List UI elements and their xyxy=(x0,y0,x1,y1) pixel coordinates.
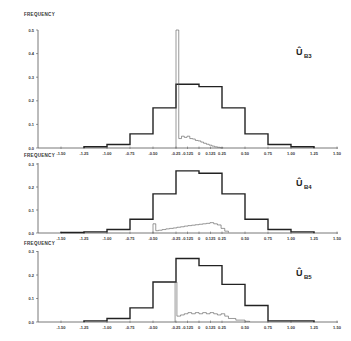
x-tick-label: -0.125 xyxy=(182,151,194,156)
y-axis-label: FREQUENCY xyxy=(24,153,55,158)
x-tick-label: 0.125 xyxy=(205,325,216,330)
y-tick-label: 0.3 xyxy=(28,249,34,254)
x-tick-label: -0.50 xyxy=(148,236,158,241)
x-tick-label: -1.50 xyxy=(56,151,66,156)
y-tick-label: 0.2 xyxy=(28,98,34,103)
y-tick-label: 0.0 xyxy=(28,320,34,325)
y-tick-label: 0.0 xyxy=(28,231,34,236)
y-tick-label: 0.3 xyxy=(28,75,34,80)
panel-label: Û xyxy=(296,177,303,188)
panel-subscript: B5 xyxy=(304,274,312,280)
y-tick-label: 0.4 xyxy=(28,51,34,56)
x-tick-label: 0.75 xyxy=(264,236,273,241)
y-tick-label: 0.2 xyxy=(28,273,34,278)
x-tick-label: -1.25 xyxy=(79,236,89,241)
x-tick-label: -1.00 xyxy=(102,325,112,330)
x-tick-label: -0.25 xyxy=(171,236,181,241)
x-tick-label: -0.75 xyxy=(125,236,135,241)
y-tick-label: 0.1 xyxy=(28,296,34,301)
y-tick-label: 0.1 xyxy=(28,208,34,213)
x-tick-label: -1.25 xyxy=(79,151,89,156)
x-tick-label: 1.50 xyxy=(333,325,342,330)
x-tick-label: 1.00 xyxy=(287,325,296,330)
y-tick-label: 0.5 xyxy=(28,28,34,33)
x-tick-label: -0.25 xyxy=(171,325,181,330)
x-tick-label: 1.25 xyxy=(310,236,319,241)
coarse-histogram xyxy=(84,84,314,148)
x-tick-label: -0.75 xyxy=(125,325,135,330)
panel-subscript: B3 xyxy=(304,53,312,59)
x-tick-label: -0.125 xyxy=(182,325,194,330)
x-tick-label: 0 xyxy=(198,325,201,330)
x-tick-label: 0.75 xyxy=(264,325,273,330)
x-tick-label: -0.50 xyxy=(148,151,158,156)
x-tick-label: 0.125 xyxy=(205,236,216,241)
x-tick-label: 1.50 xyxy=(333,236,342,241)
x-tick-label: -1.25 xyxy=(79,325,89,330)
x-tick-label: 0.50 xyxy=(241,151,250,156)
panel-label: Û xyxy=(296,267,303,278)
x-tick-label: -1.00 xyxy=(102,236,112,241)
x-tick-label: 0.125 xyxy=(205,151,216,156)
y-tick-label: 0.0 xyxy=(28,146,34,151)
x-tick-label: -1.50 xyxy=(56,325,66,330)
y-tick-label: 0.1 xyxy=(28,122,34,127)
x-tick-label: 1.00 xyxy=(287,151,296,156)
x-tick-label: -0.75 xyxy=(125,151,135,156)
x-tick-label: 0.25 xyxy=(218,151,227,156)
x-tick-label: 0 xyxy=(198,236,201,241)
y-tick-label: 0.2 xyxy=(28,185,34,190)
x-tick-label: 1.25 xyxy=(310,325,319,330)
fine-histogram xyxy=(175,282,250,322)
panel-subscript: B4 xyxy=(304,184,312,190)
y-axis-label: FREQUENCY xyxy=(24,241,55,246)
x-tick-label: 0 xyxy=(198,151,201,156)
y-tick-label: 0.3 xyxy=(28,162,34,167)
histogram-panel-b5: FREQUENCY0.00.10.20.3-1.50-1.25-1.00-0.7… xyxy=(24,241,342,330)
x-tick-label: 0.50 xyxy=(241,325,250,330)
histogram-figure: FREQUENCY0.00.10.20.30.40.5-1.50-1.25-1.… xyxy=(0,0,351,341)
x-tick-label: 0.25 xyxy=(218,236,227,241)
y-axis-label: FREQUENCY xyxy=(24,12,55,17)
x-tick-label: 1.00 xyxy=(287,236,296,241)
x-tick-label: -0.50 xyxy=(148,325,158,330)
fine-histogram xyxy=(176,30,223,148)
x-tick-label: 1.50 xyxy=(333,151,342,156)
x-tick-label: 1.25 xyxy=(310,151,319,156)
x-tick-label: -1.00 xyxy=(102,151,112,156)
panel-label: Û xyxy=(296,46,303,57)
fine-histogram xyxy=(153,223,228,233)
x-tick-label: 0.75 xyxy=(264,151,273,156)
histogram-panel-b3: FREQUENCY0.00.10.20.30.40.5-1.50-1.25-1.… xyxy=(24,12,342,156)
histogram-panel-b4: FREQUENCY0.00.10.20.3-1.50-1.25-1.00-0.7… xyxy=(24,153,342,241)
x-tick-label: 0.25 xyxy=(218,325,227,330)
x-tick-label: -0.25 xyxy=(171,151,181,156)
x-tick-label: 0.50 xyxy=(241,236,250,241)
x-tick-label: -1.50 xyxy=(56,236,66,241)
x-tick-label: -0.125 xyxy=(182,236,194,241)
coarse-histogram xyxy=(61,171,314,233)
